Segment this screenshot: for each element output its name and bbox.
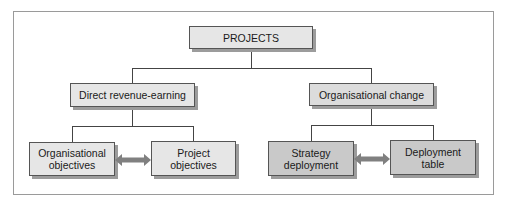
strategy-deployment-line2: deployment (284, 159, 338, 171)
projects-box: PROJECTS (189, 26, 313, 49)
organisational-objectives-line1: Organisational (38, 147, 106, 159)
organisational-objectives-line2: objectives (49, 159, 96, 171)
connector-left-child2-down (193, 126, 194, 142)
deployment-table-line2: table (422, 158, 445, 170)
connector-left-sub-horizontal (72, 126, 194, 127)
project-objectives-line2: objectives (170, 159, 217, 171)
strategy-deployment-line1: Strategy (291, 147, 330, 159)
connector-left-child1-down (72, 126, 73, 142)
direct-revenue-earning-label: Direct revenue-earning (79, 89, 186, 101)
organisational-change-box: Organisational change (309, 83, 434, 106)
strategy-deployment-box: Strategy deployment (268, 141, 354, 176)
connector-right-child1-down (311, 125, 312, 141)
connector-right-sub-horizontal (311, 125, 434, 126)
bidirectional-arrow-icon (354, 152, 390, 166)
direct-revenue-earning-box: Direct revenue-earning (70, 83, 195, 107)
connector-level1-horizontal (132, 68, 372, 69)
connector-left-sub-down (132, 107, 133, 126)
project-objectives-line1: Project (177, 147, 210, 159)
project-objectives-box: Project objectives (151, 141, 236, 176)
connector-left-branch-down (132, 68, 133, 84)
connector-right-branch-down (371, 68, 372, 84)
projects-label: PROJECTS (223, 32, 279, 44)
connector-right-child2-down (433, 125, 434, 141)
deployment-table-box: Deployment table (390, 140, 476, 175)
deployment-table-line1: Deployment (405, 146, 461, 158)
bidirectional-arrow-icon (115, 153, 151, 167)
organisational-objectives-box: Organisational objectives (29, 142, 115, 176)
connector-right-sub-down (371, 106, 372, 125)
connector-root-down (251, 49, 252, 69)
organisational-change-label: Organisational change (319, 89, 424, 101)
